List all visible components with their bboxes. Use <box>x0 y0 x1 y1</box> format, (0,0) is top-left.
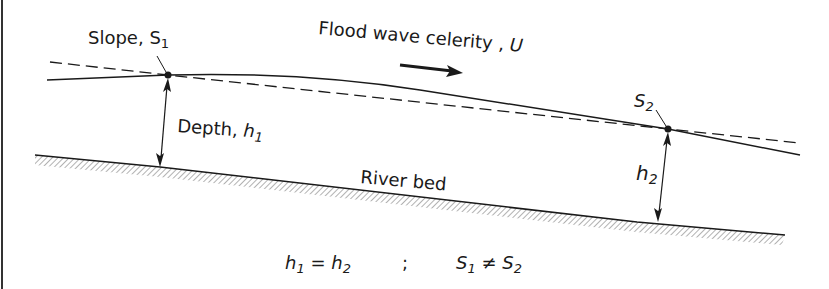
river-bed <box>35 155 785 245</box>
svg-text:S1 ≠ S2: S1 ≠ S2 <box>456 252 522 276</box>
slope-s1-label: Slope, S1 <box>88 27 169 51</box>
svg-text:;: ; <box>402 252 408 273</box>
water-surface-curve <box>47 74 800 155</box>
depth-h1-arrow <box>156 78 171 167</box>
river-bed-label: River bed <box>360 166 448 194</box>
s2-leader-line <box>656 110 666 126</box>
celerity-label: Flood wave celerity , U <box>318 17 524 56</box>
h2-label: h2 <box>636 161 658 187</box>
point-s1 <box>165 72 172 79</box>
s1-leader-line <box>157 56 166 72</box>
svg-text:h1 = h2: h1 = h2 <box>285 252 351 276</box>
depth-h1-label: Depth, h1 <box>177 115 264 145</box>
point-s2 <box>665 126 672 133</box>
s2-label: S2 <box>634 90 654 114</box>
flood-wave-diagram: Slope, S1 Flood wave celerity , U S2 Dep… <box>0 0 829 289</box>
flood-direction-arrow-icon <box>400 65 463 77</box>
dashed-reference-line <box>50 62 800 143</box>
equation: h1 = h2 ; S1 ≠ S2 <box>285 252 522 276</box>
